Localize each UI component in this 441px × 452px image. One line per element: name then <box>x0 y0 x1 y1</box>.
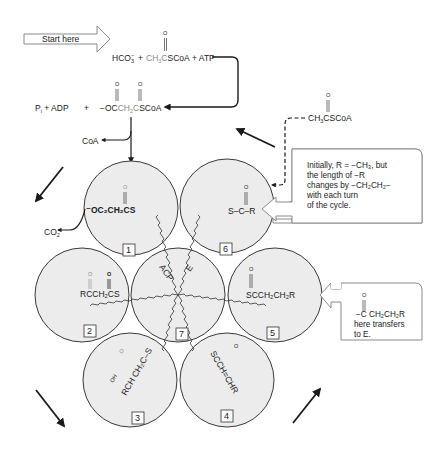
svg-text:−OCCH2CSCoA: −OCCH2CSCoA <box>100 103 162 114</box>
svg-text:CH3CSCoA: CH3CSCoA <box>308 113 352 124</box>
cycle-arrow-top-left <box>36 167 63 201</box>
svg-text:+: + <box>138 53 143 63</box>
coa-label: CoA <box>82 136 99 146</box>
svg-text:O: O <box>362 292 367 298</box>
subunit-6-number: 6 <box>223 244 228 254</box>
fatty-acid-synthase-diagram: Start here HCO3− + CH3CSCoA O + ATP Pi +… <box>0 0 441 452</box>
subunit-1-number: 1 <box>126 245 131 255</box>
svg-text:O: O <box>234 343 239 349</box>
svg-text:+ ATP: + ATP <box>192 53 215 63</box>
svg-text:to E.: to E. <box>354 330 371 339</box>
acetyl-coa-input: O CH3CSCoA <box>308 92 352 124</box>
svg-text:O: O <box>123 184 128 190</box>
reaction-flow-arrow <box>165 57 238 107</box>
reaction-malonyl: Pi + ADP + −OCCH2CSCoA O O <box>35 81 162 114</box>
svg-text:with each turn: with each turn <box>306 191 358 200</box>
svg-text:the length of −R: the length of −R <box>307 171 365 180</box>
cycle-arrow-bottom-right <box>293 389 320 423</box>
note-r-length: Initially, R = −CH₃, but the length of −… <box>262 149 422 223</box>
svg-text:CH3CSCoA: CH3CSCoA <box>146 53 190 64</box>
subunit-4-number: 4 <box>224 411 229 421</box>
svg-text:O: O <box>249 266 254 272</box>
co2-label: CO2 <box>44 227 60 238</box>
coa-arrow <box>102 131 131 140</box>
svg-text:⁻OC₂CH₂CS: ⁻OC₂CH₂CS <box>86 205 136 215</box>
svg-text:of the cycle.: of the cycle. <box>307 201 351 210</box>
subunit-3-number: 3 <box>135 413 140 423</box>
reaction-carboxylation: HCO3− + CH3CSCoA O + ATP <box>112 30 215 64</box>
svg-text:O: O <box>163 30 168 36</box>
svg-text:O: O <box>326 92 331 98</box>
svg-text:changes by −CH₂CH₂−: changes by −CH₂CH₂− <box>307 181 391 190</box>
cycle-arrow-bottom-left <box>36 390 64 426</box>
svg-text:O: O <box>138 81 143 87</box>
co2-arrow <box>58 209 85 230</box>
subunit-7-number: 7 <box>179 329 184 339</box>
svg-text:O: O <box>244 184 249 190</box>
svg-text:Initially, R = −CH₃, but: Initially, R = −CH₃, but <box>307 161 388 170</box>
start-here-arrow: Start here <box>24 26 110 52</box>
svg-text:O: O <box>88 271 93 277</box>
svg-text:O: O <box>115 81 120 87</box>
svg-text:here transfers: here transfers <box>354 320 405 329</box>
svg-text:HCO3−: HCO3− <box>112 52 134 64</box>
svg-text:Pi + ADP: Pi + ADP <box>35 103 69 114</box>
svg-text:RCCH₂CS: RCCH₂CS <box>80 289 120 299</box>
subunit-6-circle <box>180 159 274 253</box>
svg-text:+: + <box>84 103 89 113</box>
subunit-5-number: 5 <box>270 328 275 338</box>
start-here-label: Start here <box>42 34 80 44</box>
svg-text:SCCH₂CH₂R: SCCH₂CH₂R <box>246 290 295 300</box>
svg-text:S–C–R: S–C–R <box>228 206 255 216</box>
cycle-arrow-top-right <box>237 129 275 147</box>
note-transfer-e: O −C CH₂CH₂R here transfers to E. <box>320 283 422 340</box>
svg-text:O: O <box>107 271 112 277</box>
svg-text:−C CH₂CH₂R: −C CH₂CH₂R <box>356 310 405 319</box>
subunit-2-number: 2 <box>87 326 92 336</box>
